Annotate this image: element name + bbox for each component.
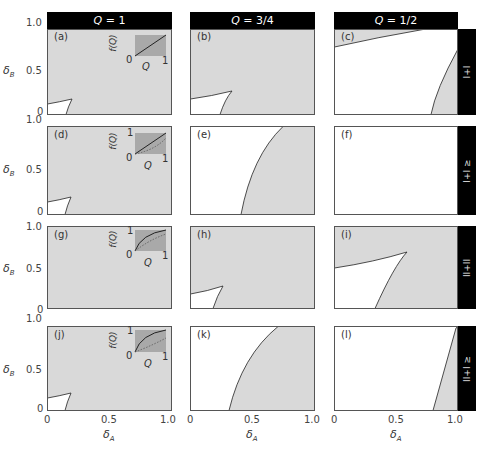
row-label: I+I <box>462 66 472 79</box>
panel-f-plot <box>334 126 458 215</box>
xlabel-symbol: δ <box>246 428 253 441</box>
panel-f <box>334 126 458 215</box>
y-tick-1.0: 1.0 <box>26 221 42 232</box>
xlabel-sub: A <box>253 435 258 443</box>
panel-label-c: (c) <box>341 31 354 42</box>
panel-label-h: (h) <box>197 229 211 240</box>
ylabel-sub: B <box>10 170 15 178</box>
panel-label-a: (a) <box>54 31 68 42</box>
row-label-bar-1: I+I <box>457 29 476 115</box>
panel-label-b: (b) <box>197 31 211 42</box>
row-label-bar-3: II+II <box>457 226 476 309</box>
y-tick-0.5: 0.5 <box>26 65 42 76</box>
row-label-bar-2: I+I ≥ <box>457 126 476 215</box>
panel-l-plot <box>334 326 458 411</box>
inset-one-y: 1 <box>127 325 133 336</box>
panel-label-g: (g) <box>54 229 68 240</box>
column-header-q1: Q = 1 <box>47 12 172 29</box>
y-axis-label: δB <box>3 363 15 378</box>
ylabel-symbol: δ <box>3 262 10 275</box>
panel-l <box>334 326 458 411</box>
ylabel-symbol: δ <box>3 363 10 376</box>
panel-label-e: (e) <box>197 129 211 140</box>
row-label: I+I ≥ <box>462 159 472 182</box>
x-tick-1.0: 1.0 <box>447 414 463 425</box>
panel-i <box>334 226 458 309</box>
panel-i-plot <box>334 226 458 309</box>
y-axis-label: δB <box>3 64 15 79</box>
x-tick-1.0: 1.0 <box>304 414 320 425</box>
inset-one: 1 <box>162 351 168 362</box>
ylabel-sub: B <box>10 269 15 277</box>
panel-label-l: (l) <box>341 329 352 340</box>
y-tick-1.0: 1.0 <box>26 114 42 125</box>
inset-xlabel: Q <box>144 358 152 369</box>
panel-label-f: (f) <box>341 129 352 140</box>
panel-label-d: (d) <box>54 129 68 140</box>
inset-one: 1 <box>162 55 168 66</box>
y-tick-1.0: 1.0 <box>26 313 42 324</box>
header-q-symbol: Q <box>231 14 240 27</box>
inset-one: 1 <box>162 250 168 261</box>
x-tick-0: 0 <box>331 414 337 425</box>
row-label: II+II <box>462 258 472 276</box>
x-tick-0.5: 0.5 <box>101 414 117 425</box>
inset-one: 1 <box>162 153 168 164</box>
y-tick-0: 0 <box>37 403 43 414</box>
inset-xlabel: Q <box>144 257 152 268</box>
x-axis-label: δA <box>103 428 115 443</box>
inset-zero: 0 <box>126 350 132 361</box>
panel-label-j: (j) <box>54 329 65 340</box>
x-axis-label: δA <box>390 428 402 443</box>
xlabel-symbol: δ <box>390 428 397 441</box>
xlabel-symbol: δ <box>103 428 110 441</box>
inset-xlabel: Q <box>142 61 150 72</box>
inset-ylabel: f(Q) <box>108 230 118 247</box>
inset-one-y: 1 <box>127 225 133 236</box>
ylabel-sub: B <box>10 370 15 378</box>
x-tick-0.5: 0.5 <box>388 414 404 425</box>
header-q-symbol: Q <box>94 14 103 27</box>
x-tick-0.5: 0.5 <box>244 414 260 425</box>
row-label-bar-4: II+I ≥ <box>457 326 476 411</box>
xlabel-sub: A <box>397 435 402 443</box>
column-header-q34: Q = 3/4 <box>190 12 315 29</box>
x-tick-0: 0 <box>44 414 50 425</box>
inset-zero: 0 <box>126 152 132 163</box>
inset-one-y: 1 <box>127 127 133 138</box>
y-tick-0.5: 0.5 <box>26 164 42 175</box>
ylabel-symbol: δ <box>3 163 10 176</box>
y-tick-0.5: 0.5 <box>26 364 42 375</box>
y-tick-0: 0 <box>37 206 43 217</box>
header-q-value: = 1 <box>102 14 125 27</box>
x-axis-label: δA <box>246 428 258 443</box>
panel-label-k: (k) <box>197 329 211 340</box>
column-header-q12: Q = 1/2 <box>334 12 458 29</box>
inset-ylabel: f(Q) <box>108 34 118 51</box>
inset-zero: 0 <box>126 249 132 260</box>
inset-zero: 0 <box>126 54 132 65</box>
x-tick-1.0: 1.0 <box>160 414 176 425</box>
y-axis-label: δB <box>3 163 15 178</box>
xlabel-sub: A <box>110 435 115 443</box>
inset-xlabel: Q <box>144 160 152 171</box>
y-tick-0.5: 0.5 <box>26 263 42 274</box>
row-label: II+I ≥ <box>462 356 472 382</box>
y-axis-label: δB <box>3 262 15 277</box>
header-q-value: = 3/4 <box>240 14 274 27</box>
panel-label-i: (i) <box>341 229 352 240</box>
y-tick-1.0: 1.0 <box>26 17 42 28</box>
header-q-value: = 1/2 <box>383 14 417 27</box>
x-tick-0: 0 <box>187 414 193 425</box>
inset-ylabel: f(Q) <box>108 132 118 149</box>
ylabel-symbol: δ <box>3 64 10 77</box>
ylabel-sub: B <box>10 71 15 79</box>
inset-ylabel: f(Q) <box>108 331 118 348</box>
